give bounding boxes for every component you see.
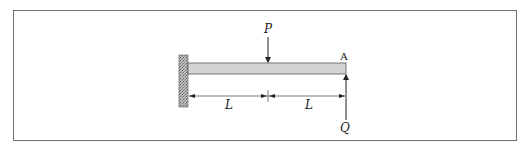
dimension-line bbox=[189, 90, 345, 102]
force-q-label: Q bbox=[340, 121, 350, 135]
point-a-label: A bbox=[340, 50, 348, 62]
span-left-label: L bbox=[224, 98, 233, 112]
span-right-label: L bbox=[304, 98, 313, 112]
beam bbox=[188, 63, 346, 74]
load-p-label: P bbox=[263, 22, 273, 36]
fixed-wall-support bbox=[179, 55, 188, 107]
beam-diagram: P A Q L L bbox=[0, 0, 526, 154]
